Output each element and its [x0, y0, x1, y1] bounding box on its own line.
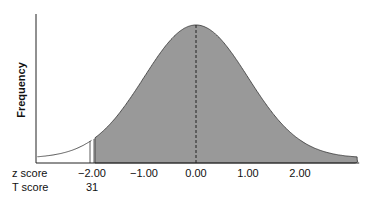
tick-label: −2.00 [78, 167, 106, 179]
tick-label: 0.00 [185, 167, 206, 179]
tick-label: 1.00 [237, 167, 258, 179]
row-label: T score [12, 181, 48, 193]
shaded-area [95, 25, 358, 163]
row-label: z score [12, 167, 47, 179]
tick-label: 2.00 [289, 167, 310, 179]
tick-label: 31 [86, 181, 98, 193]
y-axis-label: Frequency [15, 61, 27, 118]
normal-distribution-chart: Frequency z score−2.00−1.000.001.002.00T… [0, 0, 378, 204]
tick-label: −1.00 [130, 167, 158, 179]
unshaded-tail-curve [37, 140, 91, 156]
